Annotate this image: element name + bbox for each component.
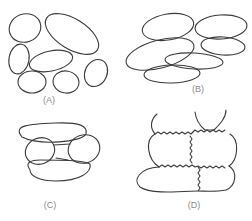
cell-shape: [21, 133, 59, 169]
cell-wall: [190, 136, 192, 163]
cell-shape: [19, 123, 86, 142]
cell-wall: [137, 167, 197, 192]
panel-c-drawing: [19, 123, 104, 181]
cell-wall: [229, 134, 237, 166]
panel-b-label: (B): [183, 84, 213, 94]
cell-wall: [195, 110, 226, 130]
cell-shape: [123, 31, 198, 76]
panel-a-label: (A): [34, 95, 64, 105]
cell-wall: [198, 166, 235, 191]
panel-a-drawing: [5, 5, 112, 95]
cell-shape: [144, 64, 201, 84]
bridge-shape: [54, 144, 70, 160]
panel-d-drawing: [137, 110, 237, 192]
cell-shape: [80, 56, 112, 91]
cell-wall: [151, 114, 157, 134]
cell-wall: [159, 165, 225, 168]
panel-b-drawing: [123, 10, 248, 84]
cell-shape: [5, 9, 45, 46]
cell-shape: [7, 42, 32, 75]
cell-wall: [198, 167, 200, 191]
cell-packing-diagram: [0, 0, 252, 221]
panel-d-label: (D): [179, 200, 209, 210]
panel-c-label: (C): [35, 200, 65, 210]
cell-wall: [148, 134, 159, 167]
cell-shape: [51, 69, 80, 95]
cell-shape: [18, 71, 46, 93]
cell-wall: [155, 130, 225, 134]
